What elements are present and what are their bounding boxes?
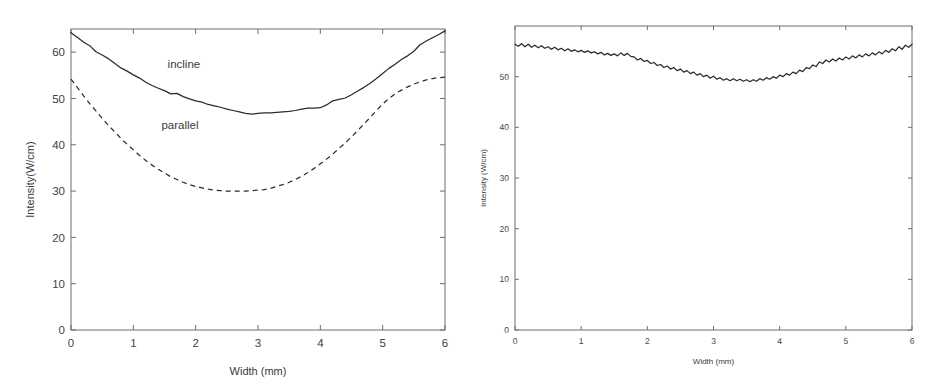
left-chart-svg: 01234560102030405060Width (mm)Intensity(…	[0, 0, 470, 378]
y-tick-label: 50	[500, 72, 510, 82]
y-tick-label: 30	[500, 173, 510, 183]
x-tick-label: 5	[379, 338, 385, 350]
x-tick-label: 2	[645, 336, 650, 346]
series-flattened	[515, 44, 912, 82]
x-tick-label: 1	[579, 336, 584, 346]
series-incline	[71, 31, 445, 114]
curve-annotation-incline: incline	[168, 58, 201, 70]
x-tick-label: 0	[513, 336, 518, 346]
y-tick-label: 10	[52, 279, 65, 291]
chart-panel-right: 012345601020304050Width (mm)Intensity (W…	[470, 0, 947, 378]
chart-panel-left: 01234560102030405060Width (mm)Intensity(…	[0, 0, 470, 378]
y-tick-label: 20	[500, 224, 510, 234]
y-tick-label: 40	[500, 122, 510, 132]
y-tick-label: 0	[59, 325, 65, 337]
y-axis-title: Intensity(W/cm)	[24, 141, 36, 217]
y-tick-label: 20	[52, 233, 65, 245]
y-tick-label: 10	[500, 274, 510, 284]
y-tick-label: 60	[52, 47, 65, 59]
x-tick-label: 1	[130, 338, 136, 350]
figure-container: 01234560102030405060Width (mm)Intensity(…	[0, 0, 947, 378]
y-tick-label: 50	[52, 94, 65, 106]
x-tick-label: 5	[843, 336, 848, 346]
x-tick-label: 3	[255, 338, 261, 350]
x-tick-label: 3	[711, 336, 716, 346]
series-parallel	[71, 77, 445, 191]
x-tick-label: 6	[442, 338, 448, 350]
x-tick-label: 6	[910, 336, 915, 346]
y-tick-label: 0	[504, 325, 509, 335]
right-chart-svg: 012345601020304050Width (mm)Intensity (W…	[470, 0, 947, 378]
x-axis-title: Width (mm)	[230, 365, 287, 377]
x-tick-label: 2	[192, 338, 198, 350]
y-axis-title: Intensity (W/cm)	[479, 149, 488, 207]
x-tick-label: 0	[68, 338, 74, 350]
x-tick-label: 4	[317, 338, 324, 350]
curve-annotation-parallel: parallel	[161, 119, 198, 131]
x-tick-label: 4	[777, 336, 782, 346]
y-tick-label: 30	[52, 186, 65, 198]
x-axis-title: Width (mm)	[693, 357, 735, 366]
y-tick-label: 40	[52, 140, 65, 152]
